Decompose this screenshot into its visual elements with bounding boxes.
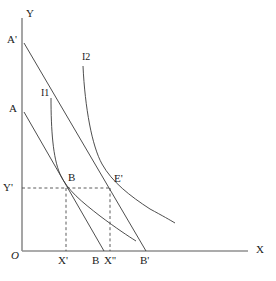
x-double-prime-tick-label: X'' bbox=[104, 255, 116, 266]
y-prime-tick-label: Y' bbox=[3, 182, 13, 193]
x-prime-tick-label: X' bbox=[58, 255, 68, 266]
point-e-prime-label: E' bbox=[114, 173, 123, 184]
curve-i1-label: I1 bbox=[41, 88, 49, 98]
b-outer-tick-label: B' bbox=[140, 255, 149, 266]
indifference-curve-diagram: Y X O A' A I1 I2 B E' Y' X' B X'' B' bbox=[0, 0, 276, 281]
y-axis-label: Y bbox=[26, 8, 34, 19]
origin-label: O bbox=[11, 250, 19, 261]
b-inner-tick-label: B bbox=[92, 255, 99, 266]
point-b-label: B bbox=[68, 172, 75, 183]
indifference-curve-i1 bbox=[51, 98, 136, 241]
budget-outer-intercept-label: A' bbox=[7, 34, 17, 45]
budget-inner-intercept-label: A bbox=[9, 103, 17, 114]
indifference-curve-i2 bbox=[83, 66, 175, 223]
budget-line-outer bbox=[24, 43, 146, 251]
diagram-canvas bbox=[0, 0, 276, 281]
curve-i2-label: I2 bbox=[82, 52, 90, 62]
x-axis-label: X bbox=[256, 244, 264, 255]
